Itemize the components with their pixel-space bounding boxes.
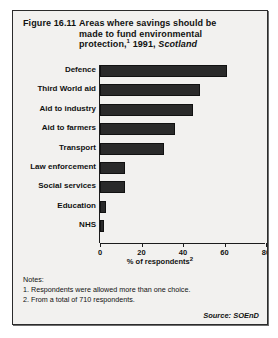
bar-third-world-aid [100, 84, 200, 96]
bar-track [100, 65, 266, 77]
title-line-1: Areas where savings should be [79, 18, 216, 28]
chart-row: Aid to industry [13, 102, 267, 121]
category-label-defence: Defence [12, 65, 96, 74]
bar-aid-to-industry [100, 104, 193, 116]
x-axis-tick-label: 20 [137, 248, 145, 257]
x-axis-tick-label: 60 [220, 248, 228, 257]
x-axis-tick [142, 243, 143, 247]
bar-defence [100, 65, 227, 77]
bar-transport [100, 143, 164, 155]
chart-row: Law enforcement [13, 160, 267, 179]
x-axis-tick [183, 243, 184, 247]
x-axis-tick-label: 40 [179, 248, 187, 257]
bar-track [100, 201, 266, 213]
category-label-transport: Transport [12, 143, 96, 152]
category-label-law-enforcement: Law enforcement [12, 162, 96, 171]
notes-heading: Notes: [23, 275, 259, 285]
x-axis-tick-label: 0 [98, 248, 102, 257]
chart-row: Defence [13, 63, 267, 82]
x-axis-title-text: % of respondents [127, 257, 190, 266]
bar-track [100, 181, 266, 193]
title-line-2: made to fund environmental [79, 29, 202, 39]
figure-title: Areas where savings should be made to fu… [79, 18, 261, 50]
title-line-3-place: Scotland [158, 39, 197, 49]
chart-row: Transport [13, 141, 267, 160]
bar-track [100, 162, 266, 174]
bar-track [100, 143, 266, 155]
bar-track [100, 84, 266, 96]
bar-nhs [100, 220, 104, 232]
chart-row: Social services [13, 179, 267, 198]
note-item-1: 1. Respondents were allowed more than on… [23, 285, 259, 295]
chart-row: NHS [13, 218, 267, 237]
notes-block: Notes: 1. Respondents were allowed more … [23, 275, 259, 305]
chart-row: Education [13, 199, 267, 218]
category-label-aid-to-farmers: Aid to farmers [12, 123, 96, 132]
y-axis-line [99, 65, 100, 243]
bar-chart-plot: Defence Third World aid Aid to industry … [13, 63, 267, 268]
figure-panel: Figure 16.11 Areas where savings should … [12, 10, 268, 325]
category-label-third-world-aid: Third World aid [12, 84, 96, 93]
bar-law-enforcement [100, 162, 125, 174]
figure-number: Figure 16.11 [23, 18, 79, 29]
title-line-3-main: protection, [79, 39, 127, 49]
category-label-aid-to-industry: Aid to industry [12, 104, 96, 113]
chart-row: Aid to farmers [13, 121, 267, 140]
x-axis-tick [266, 243, 267, 247]
title-line-3-year: 1991, [130, 39, 158, 49]
x-axis-footnote-marker: 2 [190, 256, 193, 262]
bar-aid-to-farmers [100, 123, 175, 135]
bar-track [100, 220, 266, 232]
source-credit: Source: SOEnD [23, 311, 259, 320]
figure-title-block: Figure 16.11 Areas where savings should … [23, 18, 261, 50]
category-label-social-services: Social services [12, 181, 96, 190]
chart-row: Third World aid [13, 82, 267, 101]
x-axis-tick-label: 80 [262, 248, 268, 257]
bar-track [100, 123, 266, 135]
bar-social-services [100, 181, 125, 193]
bar-track [100, 104, 266, 116]
x-axis: 020406080 % of respondents2 [13, 243, 267, 269]
x-axis-title: % of respondents2 [13, 257, 267, 266]
title-row-1: Figure 16.11 Areas where savings should … [23, 18, 261, 50]
x-axis-tick [100, 243, 101, 247]
x-axis-tick [225, 243, 226, 247]
category-label-education: Education [12, 201, 96, 210]
bar-education [100, 201, 106, 213]
note-item-2: 2. From a total of 710 respondents. [23, 295, 259, 305]
category-label-nhs: NHS [12, 220, 96, 229]
